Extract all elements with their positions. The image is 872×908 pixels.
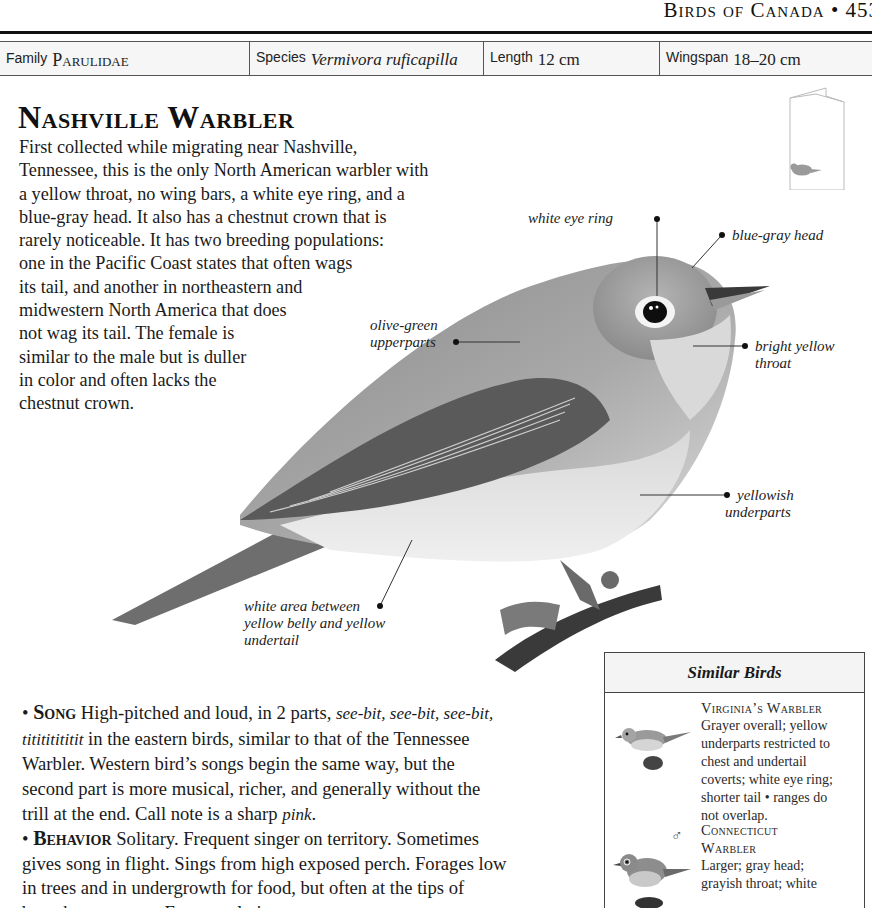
similar-bird-connecticut-warbler: Connecticut Warbler Larger; gray head; g… [701,821,861,893]
song-phrase: titititititit [22,730,83,749]
behavior-line: branches or stems. Eats mostly insects. [22,901,602,908]
similar-bird-desc: shorter tail • ranges do [701,789,861,807]
callout-line: throat [755,355,791,371]
fact-label: Wingspan [666,49,728,65]
text: High-pitched and loud, in 2 parts, [81,702,336,723]
similar-birds-title: Similar Birds [605,653,864,693]
similar-bird-name: Virginia’s Warbler [701,699,861,717]
similar-bird-desc: coverts; white eye ring; [701,771,861,789]
song-phrase: see-bit, see-bit, see-bit, [336,704,493,723]
intro-line: in color and often lacks the [19,369,539,392]
behavior-section: • Behavior Solitary. Frequent singer on … [22,826,602,908]
similar-bird-desc: underparts restricted to [701,735,861,753]
callout-white-area: white area between yellow belly and yell… [244,598,385,649]
species-title: Nashville Warbler [18,99,294,136]
intro-line: its tail, and another in northeastern an… [19,276,539,299]
fact-label: Species [256,49,306,65]
callout-line: white area between [244,598,360,614]
text: in the eastern birds, similar to that of… [83,728,469,749]
song-line: Warbler. Western bird’s songs begin the … [22,752,602,777]
intro-line: First collected while migrating near Nas… [19,136,539,159]
song-line: second part is more musical, richer, and… [22,777,602,802]
callout-line: olive-green [370,317,438,333]
length-value: 12 cm [538,50,580,70]
similar-bird-name: Connecticut [701,821,861,839]
similar-bird-desc: grayish throat; white [701,875,861,893]
bullet-separator: • [831,0,839,22]
song-line: • Song High-pitched and loud, in 2 parts… [22,700,602,727]
intro-line: midwestern North America that does [19,299,539,322]
text: Solitary. Frequent singer on territory. … [116,828,479,849]
similar-bird-desc: Grayer overall; yellow [701,717,861,735]
fact-label: Family [6,50,47,66]
fact-bar: Family Parulidae Species Vermivora rufic… [0,41,872,76]
virginias-warbler-thumbnail [613,715,693,771]
intro-paragraph: First collected while migrating near Nas… [19,136,539,416]
intro-line: not wag its tail. The female is [19,322,539,345]
header-rule [0,31,872,34]
callout-bright-yellow-throat: bright yellow throat [755,338,835,372]
behavior-line: • Behavior Solitary. Frequent singer on … [22,826,602,852]
callout-olive-green-upperparts: olive-green upperparts [370,317,438,351]
similar-bird-virginias-warbler: Virginia’s Warbler Grayer overall; yello… [701,699,861,825]
behavior-line: in trees and in undergrowth for food, bu… [22,876,602,901]
fact-wingspan: Wingspan 18–20 cm [660,42,872,75]
fact-species: Species Vermivora ruficapilla [250,42,484,75]
intro-line: a yellow throat, no wing bars, a white e… [19,183,539,206]
callout-line: underparts [725,504,791,520]
intro-line: rarely noticeable. It has two breeding p… [19,229,539,252]
callout-line: bright yellow [755,338,835,354]
behavior-heading: Behavior [33,827,111,849]
fact-family: Family Parulidae [0,42,250,75]
song-heading: Song [33,701,76,723]
callout-white-eye-ring: white eye ring [528,210,613,227]
similar-bird-name: Warbler [701,839,861,857]
page-number: 453 [846,0,872,22]
callout-line: upperparts [370,334,436,350]
call-note: pink [282,805,311,824]
book-size-icon [786,86,848,190]
intro-line: Tennessee, this is the only North Americ… [19,159,539,182]
intro-line: similar to the male but is duller [19,346,539,369]
similar-bird-desc: chest and undertail [701,753,861,771]
text: . [312,803,317,824]
intro-line: one in the Pacific Coast states that oft… [19,252,539,275]
song-line: trill at the end. Call note is a sharp p… [22,802,602,828]
song-section: • Song High-pitched and loud, in 2 parts… [22,700,602,828]
species-value: Vermivora ruficapilla [311,50,458,70]
callout-line: yellowish [737,487,794,503]
similar-bird-desc: Larger; gray head; [701,857,861,875]
connecticut-warbler-thumbnail [613,839,693,908]
intro-line: blue-gray head. It also has a chestnut c… [19,206,539,229]
similar-birds-panel: Similar Birds Virginia’s Warbler Grayer … [604,652,865,908]
running-head: Birds of Canada • 453 [664,0,872,23]
behavior-line: gives song in flight. Sings from high ex… [22,852,602,877]
fact-label: Length [490,49,533,65]
callout-line: undertail [244,632,299,648]
text: trill at the end. Call note is a sharp [22,803,282,824]
song-line: titititititit in the eastern birds, simi… [22,727,602,753]
wingspan-value: 18–20 cm [733,50,801,70]
callout-line: yellow belly and yellow [244,615,385,631]
section-title: Birds of Canada [664,0,825,22]
callout-blue-gray-head: blue-gray head [732,227,823,244]
fact-length: Length 12 cm [484,42,660,75]
callout-yellowish-underparts: yellowish underparts [737,487,794,521]
intro-line: chestnut crown. [19,392,539,415]
family-value: Parulidae [52,50,128,71]
